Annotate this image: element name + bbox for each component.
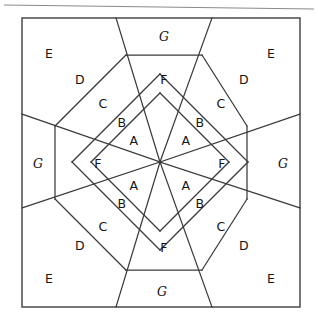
region-label-e-sw: E <box>45 271 53 286</box>
region-label-c-nw: C <box>99 96 108 111</box>
region-label-f-n: F <box>160 72 167 87</box>
region-label-c-sw: C <box>99 219 108 234</box>
region-label-g-n: G <box>159 29 169 44</box>
region-label-c-se: C <box>217 219 226 234</box>
region-label-a-sw: A <box>130 178 139 193</box>
region-label-b-sw: B <box>118 196 127 211</box>
region-label-d-se: D <box>239 238 249 253</box>
top-rule-divider <box>4 5 314 9</box>
region-label-d-ne: D <box>239 72 249 87</box>
region-label-f-e: F <box>218 156 225 171</box>
region-label-d-nw: D <box>75 72 85 87</box>
region-label-b-nw: B <box>118 115 127 130</box>
region-label-f-w: F <box>94 156 101 171</box>
region-label-a-nw: A <box>130 133 139 148</box>
region-label-g-w: G <box>33 156 43 171</box>
region-label-e-se: E <box>267 271 275 286</box>
region-label-b-ne: B <box>196 115 205 130</box>
region-label-e-nw: E <box>45 46 53 61</box>
region-label-g-s: G <box>157 284 167 299</box>
region-label-c-ne: C <box>217 96 226 111</box>
region-label-d-sw: D <box>75 238 85 253</box>
region-label-a-ne: A <box>182 133 191 148</box>
region-label-e-ne: E <box>267 46 275 61</box>
region-label-b-se: B <box>196 196 205 211</box>
region-label-f-s: F <box>160 240 167 255</box>
region-label-a-se: A <box>182 178 191 193</box>
region-label-g-e: G <box>278 156 288 171</box>
figure-container: AAAABBBBCCCCDDDDEEEEFFFFGGGG <box>0 0 318 326</box>
patchwork-diagram: AAAABBBBCCCCDDDDEEEEFFFFGGGG <box>0 0 318 326</box>
